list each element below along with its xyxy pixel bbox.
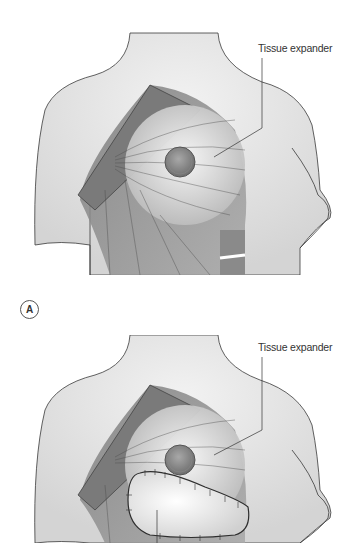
torso-illustration-b [0, 335, 353, 543]
panel-a: Tissue expander A [0, 0, 353, 275]
tissue-expander-label-b: Tissue expander [258, 341, 332, 353]
panel-b: Tissue expander [0, 335, 353, 543]
panel-a-badge: A [20, 300, 39, 319]
tissue-expander-label-a: Tissue expander [258, 42, 332, 54]
